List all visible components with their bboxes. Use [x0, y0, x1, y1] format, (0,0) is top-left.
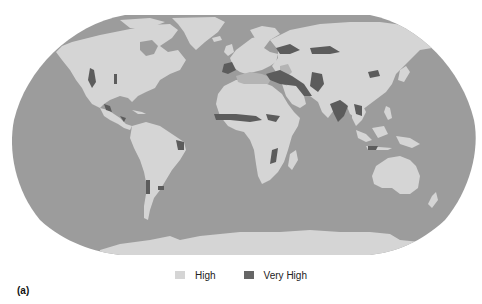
- legend-swatch-very-high: [244, 271, 254, 279]
- vh-andes: [146, 180, 150, 194]
- world-map: [0, 0, 482, 262]
- legend-swatch-high: [175, 271, 185, 279]
- legend-item-very-high: Very High: [244, 270, 307, 281]
- panel-label: (a): [17, 285, 29, 296]
- legend: High Very High: [0, 267, 482, 283]
- legend-item-high: High: [175, 270, 216, 281]
- legend-label-high: High: [195, 270, 216, 281]
- legend-label-very-high: Very High: [264, 270, 307, 281]
- vh-great-plains: [114, 74, 117, 84]
- vh-argentina: [158, 186, 164, 190]
